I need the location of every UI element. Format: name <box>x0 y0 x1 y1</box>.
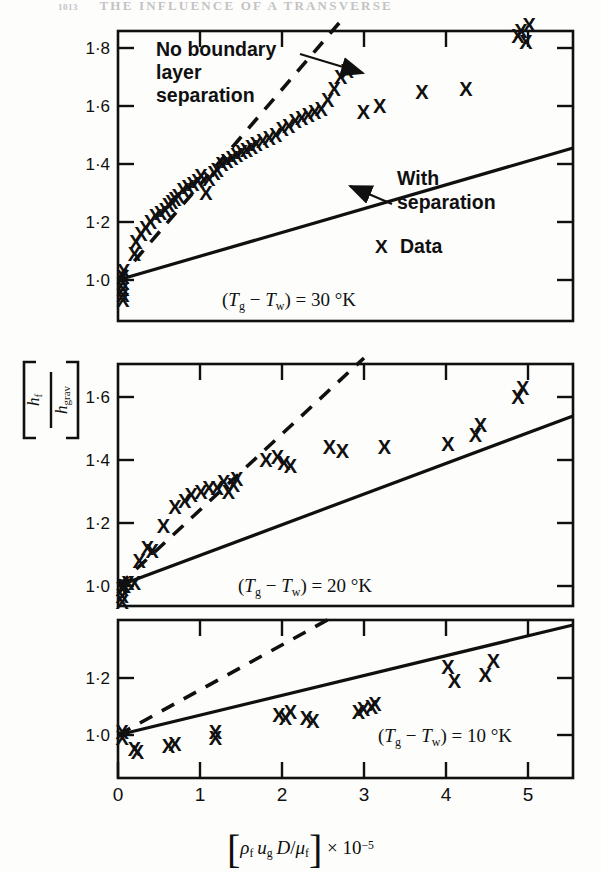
cond-eq: = <box>295 289 306 310</box>
cond-sub2: w <box>432 735 441 749</box>
svg-text:(Tg − Tw) = 30 °K: (Tg − Tw) = 30 °K <box>222 289 356 313</box>
data-point-marker: X <box>378 436 392 458</box>
panel-3-with-separation-line <box>118 625 573 735</box>
data-point-marker: X <box>522 14 536 36</box>
data-point-marker: X <box>474 414 488 436</box>
xtick-label: 1 <box>195 784 206 805</box>
cond-unit: °K <box>351 575 373 596</box>
ytick-label: 1·0 <box>85 577 110 596</box>
panel-3: 1·2 1·0 0 1 2 3 4 5 XXXXXXXXXXXXXXXXXXXX… <box>85 618 573 805</box>
panel-1-condition: (Tg − Tw) = 30 °K <box>222 289 356 313</box>
exponent: −5 <box>361 839 374 852</box>
panel-1-annotation-no-separation: No boundary layer separation <box>156 38 276 106</box>
data-point-marker: X <box>128 572 142 594</box>
data-point-marker: X <box>487 650 501 672</box>
annotation-line: With <box>397 167 439 189</box>
data-point-marker: X <box>459 78 473 100</box>
panel-3-x-ticklabels: 0 1 2 3 4 5 <box>113 784 534 805</box>
ytick-label: 1·0 <box>85 271 110 290</box>
panel-3-condition: (Tg − Tw) = 10 °K <box>378 725 512 749</box>
panel-2: 1·6 1·4 1·2 1·0 XXXXXXXXXXXXXXXXXXXXXXXX… <box>85 358 573 613</box>
cond-value: 10 <box>467 725 486 746</box>
data-point-marker: X <box>284 701 298 723</box>
d-symbol: D <box>276 837 290 858</box>
data-point-marker: X <box>131 741 145 763</box>
data-point-marker: X <box>415 81 429 103</box>
xtick-label: 2 <box>277 784 288 805</box>
data-point-marker: X <box>441 433 455 455</box>
data-point-marker: X <box>336 440 350 462</box>
mu-symbol: μ <box>295 837 305 858</box>
data-point-marker: X <box>284 455 298 477</box>
rho-subscript: f <box>249 847 253 860</box>
xtick-label: 0 <box>113 784 124 805</box>
ytick-label: 1·8 <box>85 39 110 58</box>
cond-eq: = <box>451 725 462 746</box>
cond-unit: °K <box>335 289 357 310</box>
panel-1-arrow-with-separation <box>350 186 392 204</box>
panel-2-condition: (Tg − Tw) = 20 °K <box>238 575 372 599</box>
panel-2-x-ticks <box>200 364 528 380</box>
cond-minus: − <box>250 289 261 310</box>
data-point-marker: X <box>448 670 462 692</box>
legend-marker-icon: X <box>375 236 388 257</box>
panel-2-y-ticklabels: 1·6 1·4 1·2 1·0 <box>85 388 110 596</box>
cond-sub2: w <box>276 299 285 313</box>
cond-value: 30 <box>311 289 330 310</box>
data-point-marker: X <box>340 60 354 82</box>
bracket-open: [ <box>227 827 240 872</box>
ytick-label: 1·0 <box>85 726 110 745</box>
cond-minus: − <box>266 575 277 596</box>
annotation-line: No boundary <box>156 38 276 60</box>
annotation-line: layer <box>156 61 202 83</box>
panel-1-legend: X Data <box>375 235 442 257</box>
xtick-label: 3 <box>359 784 370 805</box>
legend-label: Data <box>400 235 442 257</box>
data-point-marker: X <box>323 436 337 458</box>
annotation-line: separation <box>156 84 255 106</box>
data-point-marker: X <box>168 733 182 755</box>
x-axis-label: [ρf ug D/μf] × 10−5 <box>0 826 601 872</box>
data-point-marker: X <box>230 468 244 490</box>
cond-unit: °K <box>491 725 513 746</box>
cond-minus: − <box>406 725 417 746</box>
times-ten: × 10 <box>327 837 361 858</box>
ytick-label: 1·6 <box>85 97 110 116</box>
svg-text:(Tg − Tw) = 20 °K: (Tg − Tw) = 20 °K <box>238 575 372 599</box>
svg-text:(Tg − Tw) = 10 °K: (Tg − Tw) = 10 °K <box>378 725 512 749</box>
u-symbol: u <box>257 837 267 858</box>
panel-1-y-ticklabels: 1·8 1·6 1·4 1·2 1·0 <box>85 39 110 290</box>
data-point-marker: X <box>209 721 223 743</box>
cond-eq: = <box>311 575 322 596</box>
data-point-marker: X <box>368 693 382 715</box>
ytick-label: 1·4 <box>85 451 110 470</box>
ytick-label: 1·2 <box>85 514 110 533</box>
ytick-label: 1·2 <box>85 669 110 688</box>
data-point-marker: X <box>157 515 171 537</box>
bracket-close: ] <box>309 827 322 872</box>
u-subscript: g <box>267 847 273 860</box>
panel-1: 1·8 1·6 1·4 1·2 1·0 XXXXXXXXXXXXXXXXXXXX… <box>85 14 573 321</box>
xtick-label: 4 <box>441 784 452 805</box>
data-point-marker: X <box>306 710 320 732</box>
data-point-marker: X <box>145 540 159 562</box>
panel-1-with-separation-line <box>118 148 573 280</box>
cond-sub2: w <box>292 585 301 599</box>
annotation-line: separation <box>397 191 496 213</box>
data-point-marker: X <box>516 377 530 399</box>
ytick-label: 1·2 <box>85 213 110 232</box>
panel-3-y-ticklabels: 1·2 1·0 <box>85 669 110 745</box>
data-point-marker: X <box>373 95 387 117</box>
cond-value: 20 <box>327 575 346 596</box>
xtick-label: 5 <box>523 784 534 805</box>
data-point-marker: X <box>357 101 371 123</box>
ytick-label: 1·6 <box>85 388 110 407</box>
ytick-label: 1·4 <box>85 155 110 174</box>
